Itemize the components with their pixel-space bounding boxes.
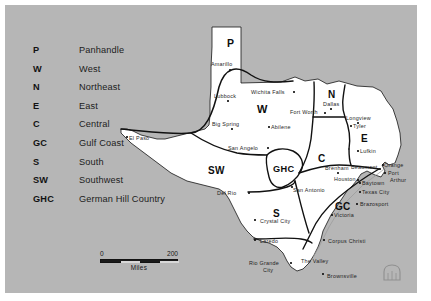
city-label: Big Spring — [212, 121, 239, 127]
map-page: P Panhandle W West N Northeast E East C … — [0, 0, 431, 301]
city-label: Longview — [346, 115, 371, 121]
scale-bar-numbers: 0 200 — [100, 250, 178, 259]
city-label: Port — [388, 170, 399, 176]
region-code-w: W — [257, 103, 268, 115]
legend-row: C Central — [33, 119, 213, 129]
city-label: Houston — [334, 176, 356, 182]
legend-abbr: SW — [33, 175, 79, 185]
city-dot — [227, 100, 229, 102]
scale-max-label: 200 — [167, 250, 178, 257]
city-label: Tyler — [353, 123, 366, 129]
legend-name: Northeast — [79, 82, 120, 92]
legend-name: South — [79, 157, 104, 167]
region-code-c: C — [318, 153, 326, 164]
city-dot — [384, 172, 386, 174]
city-dot — [359, 182, 361, 184]
city-label: Fort Worth — [290, 109, 318, 115]
legend-abbr: P — [33, 45, 79, 55]
city-label: Arthur — [390, 177, 406, 183]
city-label: El Paso — [129, 135, 149, 141]
city-label: Del Rio — [217, 190, 236, 196]
legend-row: W West — [33, 64, 213, 74]
legend-row: GC Gulf Coast — [33, 138, 213, 148]
city-label: Texas City — [362, 189, 389, 195]
legend-row: SW Southwest — [33, 175, 213, 185]
city-label: Brownsville — [327, 273, 357, 279]
city-label: Brazosport — [360, 201, 389, 207]
city-label: Orange — [384, 162, 403, 168]
city-dot — [293, 91, 295, 93]
city-dot — [267, 147, 269, 149]
city-label: Brenham — [325, 165, 349, 171]
scale-bar: 0 200 Miles — [100, 250, 178, 271]
legend-row: E East — [33, 101, 213, 111]
region-code-e: E — [361, 133, 368, 144]
city-label: Amarillo — [211, 61, 232, 67]
legend-abbr: GHC — [33, 194, 79, 204]
city-dot — [350, 125, 352, 127]
legend-name: Panhandle — [79, 45, 124, 55]
region-code-sw: SW — [208, 165, 225, 176]
legend-row: P Panhandle — [33, 45, 213, 55]
city-dot — [337, 172, 339, 174]
city-dot — [290, 262, 292, 264]
city-label: Victoria — [334, 212, 354, 218]
city-dot — [379, 168, 381, 170]
city-label: Abilene — [271, 124, 291, 130]
scale-min-label: 0 — [100, 250, 104, 257]
city-label: Dallas — [323, 101, 339, 107]
legend-row: S South — [33, 157, 213, 167]
city-dot — [268, 126, 270, 128]
region-code-ghc: GHC — [273, 164, 294, 174]
legend-name: German Hill Country — [79, 194, 165, 204]
publisher-logo-icon — [381, 263, 403, 283]
legend-name: Southwest — [79, 175, 123, 185]
city-dot — [322, 273, 324, 275]
city-dot — [356, 203, 358, 205]
region-code-gc: GC — [335, 201, 351, 212]
city-dot — [126, 136, 128, 138]
city-dot — [248, 192, 250, 194]
city-label: Beaumont — [351, 164, 378, 170]
legend-abbr: E — [33, 101, 79, 111]
city-dot — [382, 164, 384, 166]
legend-row: N Northeast — [33, 82, 213, 92]
city-label: Lufkin — [360, 148, 376, 154]
region-code-p: P — [227, 37, 234, 49]
city-label: Corpus Christi — [328, 238, 366, 244]
city-label: Lubbock — [214, 93, 236, 99]
city-label: Baytown — [362, 180, 384, 186]
legend-abbr: N — [33, 82, 79, 92]
city-dot — [231, 128, 233, 130]
city-dot — [323, 239, 325, 241]
city-dot — [331, 214, 333, 216]
city-label: Laredo — [260, 238, 278, 244]
legend-abbr: GC — [33, 138, 79, 148]
city-label: Crystal City — [260, 218, 291, 224]
city-label: City — [263, 267, 273, 273]
region-code-n: N — [328, 89, 336, 100]
city-label: San Antonio — [293, 187, 325, 193]
city-dot — [324, 112, 326, 114]
city-dot — [291, 186, 293, 188]
scale-bar-graphic — [100, 259, 178, 263]
city-dot — [357, 150, 359, 152]
legend-name: East — [79, 101, 98, 111]
city-label: Wichita Falls — [251, 89, 285, 95]
legend-name: West — [79, 64, 100, 74]
city-dot — [357, 179, 359, 181]
region-legend: P Panhandle W West N Northeast E East C … — [33, 45, 213, 212]
city-dot — [330, 108, 332, 110]
city-dot — [254, 219, 256, 221]
city-dot — [254, 239, 256, 241]
city-label: The Valley — [301, 258, 329, 264]
legend-name: Gulf Coast — [79, 138, 124, 148]
legend-abbr: S — [33, 157, 79, 167]
city-label: Rio Grande — [249, 260, 279, 266]
map-canvas: P Panhandle W West N Northeast E East C … — [5, 5, 417, 293]
legend-name: Central — [79, 119, 110, 129]
legend-abbr: W — [33, 64, 79, 74]
scale-units-label: Miles — [100, 264, 178, 271]
city-dot — [229, 69, 231, 71]
city-label: San Angelo — [228, 145, 258, 151]
